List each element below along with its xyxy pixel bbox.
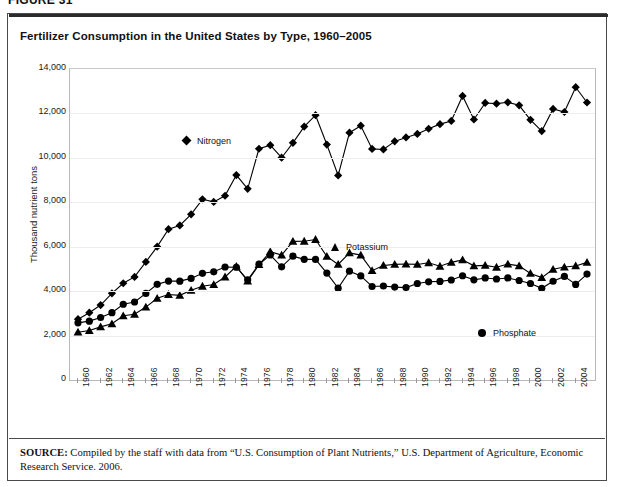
- x-tick-mark: [394, 378, 395, 383]
- x-tick-label: 1996: [488, 367, 498, 387]
- chart-canvas: Thousand nutrient tons 02,0004,0006,0008…: [8, 14, 608, 482]
- legend-item-nitrogen: Nitrogen: [183, 135, 231, 146]
- x-tick-mark: [552, 378, 553, 383]
- triangle-marker-icon: [331, 243, 339, 251]
- x-tick-label: 1998: [511, 367, 521, 387]
- x-tick-mark: [303, 378, 304, 383]
- gridline: [70, 202, 595, 203]
- x-tick-label: 1976: [262, 367, 272, 387]
- x-tick-label: 1974: [239, 367, 249, 387]
- x-tick-label: 1988: [398, 367, 408, 387]
- x-tick-label: 1982: [330, 367, 340, 387]
- x-tick-mark: [326, 378, 327, 383]
- x-tick-mark: [439, 378, 440, 383]
- x-tick-label: 2002: [556, 367, 566, 387]
- circle-marker-icon: [478, 329, 486, 337]
- x-tick-mark: [145, 378, 146, 383]
- x-axis-tick-labels: 1960196219641966196819701972197419761978…: [69, 383, 596, 443]
- x-tick-label: 2004: [579, 367, 589, 387]
- x-tick-label: 1990: [420, 367, 430, 387]
- y-tick-label: 8,000: [20, 196, 66, 205]
- x-tick-label: 1984: [352, 367, 362, 387]
- legend-item-phosphate: Phosphate: [478, 327, 536, 338]
- series-phosphate: [74, 251, 590, 326]
- x-tick-label: 1966: [149, 367, 159, 387]
- legend-label-phosphate: Phosphate: [493, 328, 536, 338]
- legend-item-potassium: Potassium: [331, 241, 388, 252]
- figure-panel: Fertilizer Consumption in the United Sta…: [7, 13, 607, 481]
- gridline: [70, 158, 595, 159]
- y-tick-label: 2,000: [20, 330, 66, 339]
- y-tick-label: 14,000: [20, 63, 66, 72]
- x-tick-mark: [100, 378, 101, 383]
- y-tick-label: 12,000: [20, 107, 66, 116]
- x-tick-mark: [190, 378, 191, 383]
- x-tick-mark: [281, 378, 282, 383]
- x-tick-mark: [484, 378, 485, 383]
- x-tick-mark: [167, 378, 168, 383]
- x-tick-label: 1994: [466, 367, 476, 387]
- x-tick-mark: [416, 378, 417, 383]
- x-tick-label: 1970: [194, 367, 204, 387]
- x-tick-mark: [462, 378, 463, 383]
- x-tick-label: 1962: [104, 367, 114, 387]
- x-tick-mark: [371, 378, 372, 383]
- x-tick-label: 1960: [81, 367, 91, 387]
- x-tick-mark: [77, 378, 78, 383]
- gridline: [70, 113, 595, 114]
- y-tick-label: 6,000: [20, 241, 66, 250]
- gridline: [70, 291, 595, 292]
- x-tick-mark: [507, 378, 508, 383]
- diamond-marker-icon: [182, 136, 192, 146]
- x-tick-label: 1972: [217, 367, 227, 387]
- x-tick-mark: [213, 378, 214, 383]
- y-axis-tick-labels: 02,0004,0006,0008,00010,00012,00014,000: [14, 14, 66, 482]
- source-text: Compiled by the staff with data from “U.…: [20, 447, 583, 472]
- x-tick-mark: [348, 378, 349, 383]
- x-tick-label: 1986: [375, 367, 385, 387]
- x-tick-label: 1964: [126, 367, 136, 387]
- x-tick-mark: [235, 378, 236, 383]
- x-tick-mark: [258, 378, 259, 383]
- x-tick-mark: [575, 378, 576, 383]
- source-divider: [9, 438, 605, 439]
- x-tick-label: 1968: [171, 367, 181, 387]
- source-prefix: SOURCE:: [20, 447, 68, 458]
- x-tick-label: 1992: [443, 367, 453, 387]
- y-tick-label: 10,000: [20, 152, 66, 161]
- y-tick-label: 0: [20, 374, 66, 383]
- source-note: SOURCE: Compiled by the staff with data …: [20, 446, 595, 474]
- y-tick-label: 4,000: [20, 285, 66, 294]
- x-tick-mark: [122, 378, 123, 383]
- legend-label-nitrogen: Nitrogen: [197, 136, 231, 146]
- figure-label: FIGURE 31: [8, 0, 73, 7]
- x-tick-label: 2000: [533, 367, 543, 387]
- x-tick-mark: [529, 378, 530, 383]
- legend-label-potassium: Potassium: [346, 242, 388, 252]
- x-tick-label: 1978: [285, 367, 295, 387]
- x-tick-label: 1980: [307, 367, 317, 387]
